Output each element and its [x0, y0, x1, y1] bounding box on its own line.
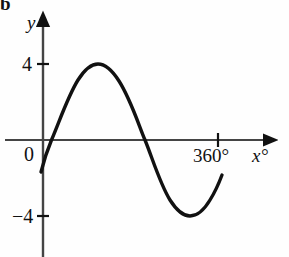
sine-graph-plot — [0, 0, 289, 257]
y-axis-label: y — [27, 13, 35, 32]
origin-label: 0 — [24, 144, 34, 164]
y-tick-label-negative-4: −4 — [12, 206, 33, 226]
figure-container: b y x° 4 −4 0 360° — [0, 0, 289, 257]
x-axis-label: x° — [252, 146, 268, 165]
x-tick-label-360: 360° — [193, 146, 229, 165]
y-tick-label-4: 4 — [22, 54, 32, 74]
